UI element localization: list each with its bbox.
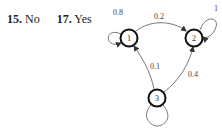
node-1: 1 (121, 30, 138, 47)
node-2: 2 (186, 30, 203, 47)
svg-text:3: 3 (155, 94, 159, 103)
edge-label-3-1: 0.1 (150, 62, 160, 71)
edge-label-1-1: 0.8 (113, 8, 123, 17)
svg-text:2: 2 (192, 34, 196, 43)
markov-chain-diagram: 0.8 0.2 1 0.1 0.4 1 2 3 (0, 0, 222, 128)
edge-label-3-2: 0.4 (188, 70, 198, 79)
edge-1-2 (136, 23, 186, 31)
edge-label-1-2: 0.2 (154, 12, 164, 21)
svg-text:1: 1 (127, 34, 131, 43)
edge-1-1 (108, 32, 121, 44)
edge-label-2-2: 1 (214, 4, 218, 13)
node-3: 3 (149, 90, 166, 107)
edge-3-3 (146, 105, 167, 126)
